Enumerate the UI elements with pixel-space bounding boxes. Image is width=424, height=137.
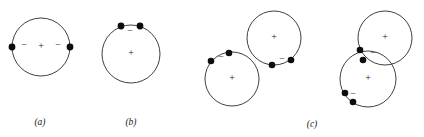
electron-minus-sign: −: [127, 25, 133, 36]
atom-a-1: +−−: [9, 18, 74, 76]
panel-label-a: (a): [34, 117, 45, 128]
electron-dot-electron-left-lower: [360, 57, 367, 64]
electron-dot-electron-upper-right: [137, 23, 144, 30]
nucleus-plus-sign: +: [382, 31, 388, 42]
panel-a: +−−(a): [9, 18, 74, 128]
electron-minus-sign: −: [218, 51, 224, 62]
atom-c-2-upper-right: +−: [247, 11, 301, 68]
electron-dot-electron-upper-right: [226, 50, 233, 57]
electron-dot-electron-upper-left: [208, 58, 215, 65]
electron-minus-sign: −: [279, 53, 285, 64]
electron-dot-electron-upper-left: [118, 23, 125, 30]
electron-minus-sign: −: [55, 39, 61, 50]
nucleus-plus-sign: +: [229, 72, 235, 83]
electron-minus-sign: −: [21, 39, 27, 50]
nucleus-plus-sign: +: [365, 72, 371, 83]
electron-dot-electron-lower-left-inner: [350, 99, 357, 106]
panel-c: +−+−+−+−(c): [205, 11, 412, 130]
electron-minus-sign: −: [350, 88, 356, 99]
panel-b: +−(b): [102, 23, 160, 129]
electron-minus-sign: −: [370, 47, 376, 58]
electron-dot-electron-left: [9, 44, 16, 51]
atom-diagram-svg: +−−(a)+−(b)+−+−+−+−(c): [0, 0, 424, 137]
nucleus-plus-sign: +: [271, 31, 277, 42]
panel-label-b: (b): [125, 117, 136, 128]
electron-dot-electron-lower-right: [288, 57, 295, 64]
electron-dot-electron-lower-left: [269, 62, 276, 69]
electron-dot-electron-left-upper: [357, 47, 364, 54]
figure-container: +−−(a)+−(b)+−+−+−+−(c): [0, 0, 424, 137]
atom-c-1-lower-left: +−: [205, 50, 259, 106]
electron-dot-electron-right: [67, 44, 74, 51]
electron-dot-electron-lower-left-outer: [342, 90, 349, 97]
atom-c-4-upper-right: +−: [357, 11, 412, 65]
atom-b-1: +−: [102, 23, 160, 83]
nucleus-plus-sign: +: [38, 40, 44, 51]
nucleus-plus-sign: +: [128, 47, 134, 58]
panel-label-c: (c): [307, 119, 318, 130]
